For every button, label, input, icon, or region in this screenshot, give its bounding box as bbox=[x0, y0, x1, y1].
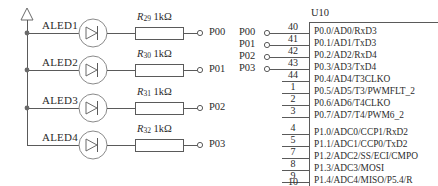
ic-pin-number-1: 1 bbox=[280, 82, 306, 92]
ic-signal-p0-0: P0.0/AD0/RxD3 bbox=[314, 27, 377, 36]
port-label-p02: P02 bbox=[209, 102, 225, 113]
port-terminal-3 bbox=[197, 105, 202, 110]
ic-signal-p1-3: P1.3/ADC3/MOSI bbox=[314, 164, 384, 173]
net-terminal-p02 bbox=[264, 54, 269, 59]
net-terminal-p03 bbox=[264, 66, 269, 71]
ic-signal-p0-2: P0.2/AD2/RxD4 bbox=[314, 51, 377, 60]
resistor-label-4: R32 1kΩ bbox=[137, 124, 172, 135]
ic-pin-number-41: 41 bbox=[280, 34, 306, 44]
ic-pin-number-3: 3 bbox=[280, 106, 306, 116]
junction-dot-1 bbox=[25, 31, 30, 36]
led-label-1: ALED1 bbox=[42, 20, 78, 31]
ic-pin-number-4: 4 bbox=[280, 123, 306, 133]
resistor-sub-3: 31 bbox=[143, 89, 151, 98]
junction-dot-2 bbox=[25, 68, 30, 73]
ic-pin-number-42: 42 bbox=[280, 46, 306, 56]
resistor-sub-4: 32 bbox=[143, 126, 151, 135]
resistor-label-2: R30 1kΩ bbox=[137, 49, 172, 60]
junction-dot-3 bbox=[25, 106, 30, 111]
ic-signal-p1-0: P1.0/ADC0/CCP1/RxD2 bbox=[314, 128, 408, 137]
resistor-label-1: R29 1kΩ bbox=[137, 12, 172, 23]
net-terminal-p00 bbox=[264, 30, 269, 35]
resistor-label-3: R31 1kΩ bbox=[137, 87, 172, 98]
ic-signal-p0-3: P0.3/AD3/TxD4 bbox=[314, 63, 376, 72]
ic-pin-number-8: 8 bbox=[280, 159, 306, 169]
ic-signal-p0-4: P0.4/AD4/T3CLKO bbox=[314, 75, 390, 84]
ic-signal-p1-2: P1.2/ADC2/SS/ECI/CMPO bbox=[314, 152, 418, 161]
resistor-value-4: 1kΩ bbox=[154, 123, 172, 134]
ic-pin-number-7: 7 bbox=[280, 147, 306, 157]
led-body-2 bbox=[79, 56, 107, 84]
resistor-value-3: 1kΩ bbox=[154, 86, 172, 97]
resistor-sub-2: 30 bbox=[143, 51, 151, 60]
ic-signal-p1-1: P1.1/ADC1/CCP0/TxD2 bbox=[314, 140, 408, 149]
led-body-3 bbox=[79, 94, 107, 122]
resistor-body-4 bbox=[135, 139, 183, 151]
resistor-sub-1: 29 bbox=[143, 14, 151, 23]
ic-designator: U10 bbox=[311, 8, 329, 19]
ic-pin-number-2: 2 bbox=[280, 94, 306, 104]
ic-signal-p0-7: P0.7/AD7/T4/PWM6_2 bbox=[314, 111, 404, 120]
net-label-p02: P02 bbox=[239, 51, 255, 62]
ic-pin-number-40: 40 bbox=[280, 22, 306, 32]
net-label-p01: P01 bbox=[239, 39, 255, 50]
led-body-4 bbox=[79, 131, 107, 159]
resistor-value-2: 1kΩ bbox=[154, 48, 172, 59]
led-label-4: ALED4 bbox=[42, 132, 78, 143]
led-label-3: ALED3 bbox=[42, 95, 78, 106]
net-label-p00: P00 bbox=[239, 27, 255, 38]
port-label-p03: P03 bbox=[209, 139, 225, 150]
ic-pin-number-5: 5 bbox=[280, 135, 306, 145]
resistor-body-2 bbox=[135, 64, 183, 76]
ic-pin-number-43: 43 bbox=[280, 58, 306, 68]
port-label-p01: P01 bbox=[209, 64, 225, 75]
net-label-p03: P03 bbox=[239, 63, 255, 74]
resistor-value-1: 1kΩ bbox=[154, 11, 172, 22]
ic-pin-number-44: 44 bbox=[280, 70, 306, 80]
ic-signal-p0-5: P0.5/AD5/T3/PWMFLT_2 bbox=[314, 87, 415, 96]
ic-signal-p0-6: P0.6/AD6/T4CLKO bbox=[314, 99, 390, 108]
schematic-canvas: ALED1 ALED2 ALED3 ALED4 R29 1kΩ R30 1kΩ … bbox=[0, 0, 438, 186]
ic-signal-p0-1: P0.1/AD1/TxD3 bbox=[314, 39, 376, 48]
led-body-1 bbox=[79, 19, 107, 47]
resistor-body-3 bbox=[135, 102, 183, 114]
resistor-body-1 bbox=[135, 27, 183, 39]
ic-pin-number-10: 10 bbox=[280, 177, 306, 186]
port-terminal-1 bbox=[197, 30, 202, 35]
port-terminal-4 bbox=[197, 142, 202, 147]
net-terminal-p01 bbox=[264, 42, 269, 47]
port-label-p00: P00 bbox=[209, 27, 225, 38]
vcc-triangle-icon bbox=[21, 8, 33, 20]
ic-signal-p1-4: P1.4/ADC4/MISO/P5.4/R bbox=[314, 176, 412, 185]
led-label-2: ALED2 bbox=[42, 57, 78, 68]
port-terminal-2 bbox=[197, 67, 202, 72]
